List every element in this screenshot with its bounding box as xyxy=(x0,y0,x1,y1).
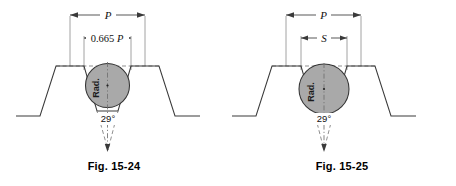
radius-label: Rad. xyxy=(306,82,316,102)
arrowhead-width-left xyxy=(301,36,308,41)
angle-label: 29° xyxy=(317,113,332,124)
pitch-dimension-label: P xyxy=(104,9,112,21)
pitch-dimension-label: P xyxy=(319,9,327,21)
figure-caption-right: Fig. 15-25 xyxy=(228,160,456,172)
apex-arrowhead xyxy=(321,144,326,152)
figure-15-24: P 0.665 P Rad. xyxy=(0,0,228,186)
arrowhead-pitch-right xyxy=(137,12,145,18)
circle-center-point xyxy=(323,88,325,90)
radius-label: Rad. xyxy=(91,78,101,98)
width-dimension-value: 0.665 xyxy=(91,33,115,44)
angle-label: 29° xyxy=(101,113,116,124)
width-dimension-label: S xyxy=(321,32,327,44)
width-dimension-label: 0.665 P xyxy=(91,33,124,44)
arrowhead-pitch-left xyxy=(286,12,294,18)
thread-profile-drawing-left: P 0.665 P Rad. xyxy=(0,0,228,160)
thread-profile-drawing-right: P S Rad. 29° xyxy=(228,0,456,160)
circle-center-point xyxy=(106,84,108,86)
figure-caption-left: Fig. 15-24 xyxy=(0,160,228,172)
arrowhead-pitch-right xyxy=(353,12,361,18)
arrowhead-width-right xyxy=(340,36,347,41)
apex-arrowhead xyxy=(105,144,110,152)
width-dimension-unit: P xyxy=(116,33,124,44)
figure-15-25: P S Rad. 29° Fig xyxy=(228,0,456,186)
arrowhead-pitch-left xyxy=(70,12,78,18)
figure-sheet: P 0.665 P Rad. xyxy=(0,0,456,186)
